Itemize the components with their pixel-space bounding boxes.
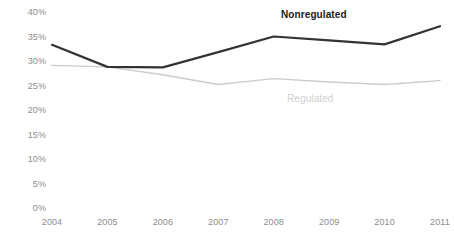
series-label-nonregulated: Nonregulated [281,9,347,20]
x-axis-tick-label: 2008 [252,217,296,228]
x-axis-tick-label: 2006 [141,217,185,228]
x-axis-tick-label: 2011 [418,217,454,228]
x-axis-tick-label: 2005 [85,217,129,228]
x-axis-tick-label: 2004 [30,217,74,228]
x-axis-tick-label: 2009 [307,217,351,228]
series-label-regulated: Regulated [287,93,334,104]
x-axis-tick-label: 2007 [196,217,240,228]
x-axis-tick-label: 2010 [363,217,407,228]
